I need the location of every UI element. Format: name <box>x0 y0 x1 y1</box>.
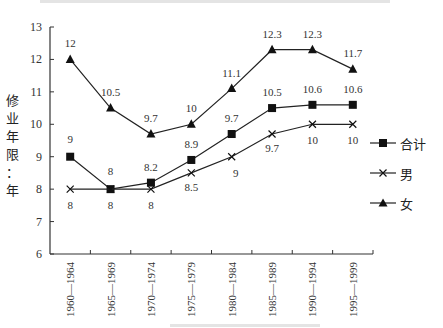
triangle-marker-icon <box>308 45 317 54</box>
data-label: 8.5 <box>184 181 198 193</box>
x-tick-label: 1965—1969 <box>105 262 117 318</box>
data-label: 10 <box>307 134 319 146</box>
x-tick-label: 1980—1984 <box>226 262 238 318</box>
square-marker-icon <box>187 156 195 164</box>
x-tick-label: 1985—1989 <box>266 262 278 318</box>
square-marker-icon <box>308 101 316 109</box>
legend: 合计 男 女 <box>368 128 426 218</box>
y-tick-label: 13 <box>30 20 42 34</box>
triangle-marker-icon <box>187 119 196 128</box>
data-label: 10.5 <box>101 86 121 98</box>
x-marker-icon <box>228 153 235 160</box>
y-tick-label: 7 <box>36 215 42 229</box>
data-label: 11.1 <box>222 67 241 79</box>
y-tick-label: 6 <box>36 247 42 261</box>
data-label: 9 <box>67 133 73 145</box>
data-label: 10.6 <box>303 83 323 95</box>
square-marker-icon <box>147 179 155 187</box>
data-label: 9.7 <box>225 112 239 124</box>
data-label: 10.6 <box>343 83 363 95</box>
y-tick-label: 11 <box>30 85 42 99</box>
data-label: 12 <box>65 37 76 49</box>
y-tick-label: 12 <box>30 52 42 66</box>
x-tick-label: 1995—1999 <box>347 262 359 318</box>
triangle-marker-icon <box>268 45 277 54</box>
data-label: 8 <box>148 199 154 211</box>
data-label: 9 <box>233 167 239 179</box>
data-label: 9.7 <box>144 112 158 124</box>
x-tick-label: 1990—1994 <box>306 262 318 318</box>
x-tick-label: 1970—1974 <box>145 262 157 318</box>
data-label: 8.2 <box>144 161 158 173</box>
square-marker-icon <box>66 153 74 161</box>
legend-item-female: 女 <box>368 188 426 218</box>
y-tick-label: 9 <box>36 150 42 164</box>
x-tick-label: 1960—1964 <box>64 262 76 318</box>
data-label: 12.3 <box>303 28 323 40</box>
legend-item-total: 合计 <box>368 128 426 158</box>
data-label: 10 <box>186 102 198 114</box>
x-marker-icon <box>368 167 398 179</box>
data-label: 8.9 <box>184 138 198 150</box>
data-label: 8 <box>108 165 114 177</box>
y-tick-label: 10 <box>30 117 42 131</box>
data-label: 10 <box>347 134 359 146</box>
square-marker-icon <box>268 104 276 112</box>
square-marker-icon <box>368 137 398 149</box>
x-tick-label: 1975—1979 <box>185 262 197 318</box>
triangle-marker-icon <box>66 54 75 63</box>
data-label: 12.3 <box>262 28 282 40</box>
square-marker-icon <box>228 130 236 138</box>
square-marker-icon <box>349 101 357 109</box>
triangle-marker-icon <box>368 197 398 209</box>
data-label: 10.5 <box>262 86 282 98</box>
x-marker-icon <box>188 169 195 176</box>
data-label: 8 <box>67 199 73 211</box>
data-label: 9.7 <box>265 142 279 154</box>
data-label: 8 <box>108 199 114 211</box>
data-label: 11.7 <box>343 47 362 59</box>
triangle-marker-icon <box>348 64 357 73</box>
y-tick-label: 8 <box>36 182 42 196</box>
legend-item-male: 男 <box>368 158 426 188</box>
